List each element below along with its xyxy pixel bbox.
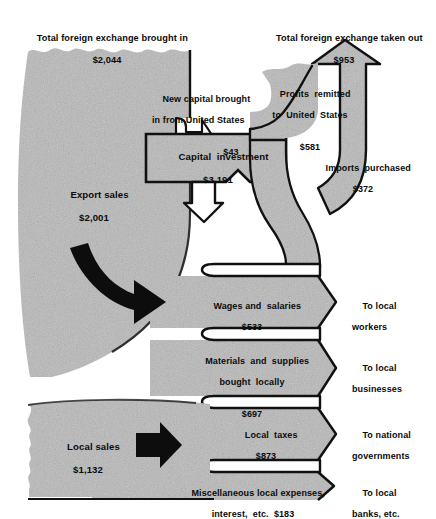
infographic-canvas: Total foreign exchange brought in $2,044… (0, 0, 436, 519)
band-slot-1 (202, 264, 320, 276)
profits-remitted-line1: Profits remitted (280, 89, 351, 99)
profits-remitted-amount: $581 (258, 142, 362, 153)
capital-investment-amount: $3,191 (156, 174, 280, 185)
destination-banks-line2: banks, etc. (352, 509, 436, 519)
destination-governments-line1: To national (362, 430, 410, 440)
export-sales-label: Export sales $2,001 (30, 178, 158, 246)
destination-governments-line2: governments (352, 451, 436, 462)
inflow-header-title: Total foreign exchange brought in (37, 33, 188, 43)
local-sales-label: Local sales $1,132 (36, 430, 140, 498)
destination-businesses: To local businesses (352, 352, 436, 416)
destination-workers-line1: To local (362, 301, 396, 311)
export-sales-amount: $2,001 (30, 212, 158, 223)
destination-workers: To local workers (352, 290, 434, 354)
wages-amount: $533 (186, 322, 318, 333)
outflow-header-amount: $953 (252, 55, 436, 66)
misc-expenses-line1: Miscellaneous local expenses, (191, 488, 324, 498)
materials-amount: $697 (180, 409, 324, 420)
local-taxes-label: Local taxes $873 (214, 419, 318, 483)
inflow-header-amount: $2,044 (12, 55, 202, 66)
destination-governments: To national governments (352, 419, 436, 483)
misc-expenses-label: Miscellaneous local expenses, interest, … (178, 477, 328, 519)
local-taxes-text: Local taxes (245, 430, 298, 440)
imports-purchased-amount: $372 (300, 184, 426, 195)
destination-businesses-line1: To local (362, 363, 396, 373)
materials-line2: bought locally (180, 377, 324, 388)
destination-banks-line1: To local (362, 488, 396, 498)
new-capital-line1: New capital brought (162, 94, 250, 104)
local-taxes-amount: $873 (214, 451, 318, 462)
local-sales-text: Local sales (67, 441, 120, 452)
misc-expenses-line2: interest, etc. $183 (178, 509, 328, 519)
profits-remitted-line2: to United States (258, 110, 362, 121)
capital-investment-text: Capital investment (179, 151, 269, 162)
imports-purchased-text: Imports purchased (326, 163, 411, 173)
wages-text: Wages and salaries (213, 301, 301, 311)
inflow-header: Total foreign exchange brought in $2,044 (12, 22, 202, 87)
local-sales-amount: $1,132 (36, 464, 140, 475)
new-capital-line2: in from United States (152, 115, 272, 126)
destination-workers-line2: workers (352, 322, 434, 333)
materials-line1: Materials and supplies (205, 356, 309, 366)
outflow-header-title: Total foreign exchange taken out (276, 33, 422, 43)
export-sales-text: Export sales (70, 189, 128, 200)
destination-banks: To local banks, etc. (352, 477, 436, 519)
imports-purchased-label: Imports purchased $372 (300, 152, 426, 216)
destination-businesses-line2: businesses (352, 384, 436, 395)
